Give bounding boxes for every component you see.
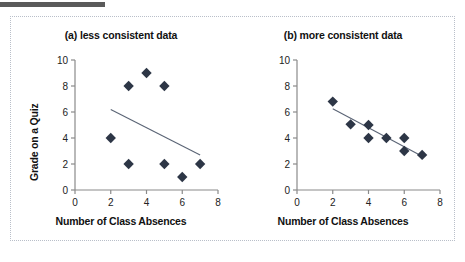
- y-tick-label: 2: [62, 159, 68, 170]
- x-tick-label: 8: [437, 197, 443, 208]
- data-point-marker: [195, 159, 205, 169]
- chart-b-plot: 024681002468: [232, 16, 454, 241]
- x-tick-label: 0: [294, 197, 300, 208]
- chart-b-x-axis-title: Number of Class Absences: [232, 215, 454, 227]
- x-tick-label: 2: [330, 197, 336, 208]
- x-tick-label: 2: [108, 197, 114, 208]
- data-point-marker: [159, 159, 169, 169]
- y-tick-label: 6: [62, 107, 68, 118]
- y-tick-label: 0: [284, 185, 290, 196]
- x-tick-label: 4: [144, 197, 150, 208]
- x-tick-label: 0: [72, 197, 78, 208]
- x-tick-label: 6: [401, 197, 407, 208]
- data-point-marker: [363, 133, 373, 143]
- y-tick-label: 0: [62, 185, 68, 196]
- y-tick-label: 2: [284, 159, 290, 170]
- y-tick-label: 4: [62, 133, 68, 144]
- x-tick-label: 8: [215, 197, 221, 208]
- y-tick-label: 6: [284, 107, 290, 118]
- top-dark-bar: [0, 2, 105, 7]
- data-point-marker: [159, 81, 169, 91]
- chart-panel-b: (b) more consistent data 024681002468 Nu…: [232, 16, 454, 241]
- data-point-marker: [106, 133, 116, 143]
- x-tick-label: 6: [179, 197, 185, 208]
- data-point-marker: [141, 68, 151, 78]
- y-tick-label: 8: [284, 81, 290, 92]
- chart-a-x-axis-title: Number of Class Absences: [10, 215, 232, 227]
- data-point-marker: [123, 81, 133, 91]
- chart-a-plot: 024681002468: [10, 16, 232, 241]
- y-tick-label: 8: [62, 81, 68, 92]
- x-tick-label: 4: [366, 197, 372, 208]
- data-point-marker: [381, 133, 391, 143]
- y-tick-label: 10: [279, 55, 291, 66]
- chart-panel-a: (a) less consistent data Grade on a Quiz…: [10, 16, 232, 241]
- data-point-marker: [363, 120, 373, 130]
- trend-line: [333, 109, 422, 156]
- trend-line: [111, 109, 200, 154]
- data-point-marker: [399, 133, 409, 143]
- data-point-marker: [328, 96, 338, 106]
- data-point-marker: [177, 172, 187, 182]
- y-tick-label: 10: [57, 55, 69, 66]
- y-tick-label: 4: [284, 133, 290, 144]
- data-point-marker: [123, 159, 133, 169]
- data-point-marker: [399, 146, 409, 156]
- figure-panels: (a) less consistent data Grade on a Quiz…: [10, 16, 455, 241]
- data-point-marker: [417, 150, 427, 160]
